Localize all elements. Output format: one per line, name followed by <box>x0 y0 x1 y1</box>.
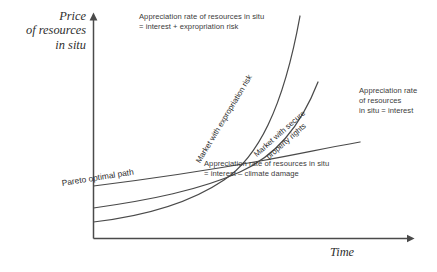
annotation-interest-line-2: of resources <box>359 96 417 106</box>
annotation-climate-damage-line-2: = interest – climate damage <box>204 169 329 179</box>
annotation-interest-line-3: in situ = interest <box>359 106 417 116</box>
y-axis-title-line-3: in situ <box>6 38 86 52</box>
annotation-expropriation-risk-line-1: Appreciation rate of resources in situ <box>139 12 264 22</box>
annotation-interest-line-1: Appreciation rate <box>359 86 417 96</box>
y-axis-title-line-2: of resources <box>6 23 86 37</box>
annotation-expropriation-risk-line-2: = interest + expropriation risk <box>139 22 264 32</box>
y-axis-title: Price of resources in situ <box>6 9 86 52</box>
figure-container: Price of resources in situ Time Apprecia… <box>0 0 437 272</box>
curve-market-expropriation-risk <box>94 16 301 222</box>
x-axis-title: Time <box>330 245 354 259</box>
annotation-expropriation-risk: Appreciation rate of resources in situ =… <box>139 12 264 32</box>
y-axis-title-line-1: Price <box>6 9 86 23</box>
annotation-interest: Appreciation rate of resources in situ =… <box>359 86 417 117</box>
